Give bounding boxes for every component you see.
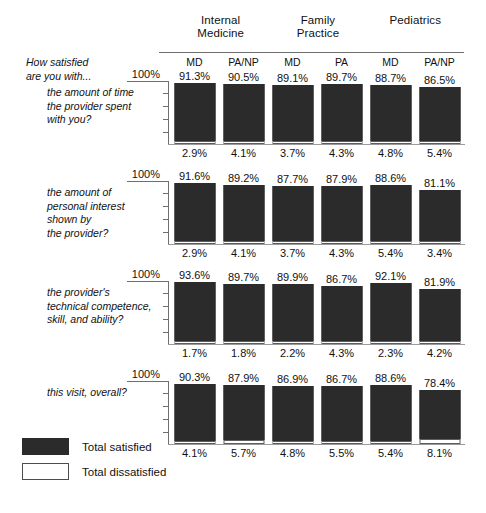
bar-value-satisfied-label: 90.3% <box>179 371 210 383</box>
bar-total-dissatisfied[interactable] <box>223 241 264 244</box>
bar-total-satisfied[interactable] <box>272 386 313 441</box>
bar-value-dissatisfied-label: 4.3% <box>329 347 354 359</box>
bar-total-dissatisfied[interactable] <box>272 441 313 444</box>
y-axis-tick-0 <box>163 193 168 194</box>
bar-total-satisfied[interactable] <box>272 284 313 341</box>
bar-column: 89.7%1.8% <box>219 268 268 345</box>
bar-value-dissatisfied-label: 3.7% <box>280 247 305 259</box>
bar-column: 78.4%8.1% <box>415 368 464 445</box>
panel-question-line: the provider's <box>47 286 142 300</box>
y-axis-tick-0 <box>163 93 168 94</box>
bar-total-satisfied[interactable] <box>321 84 362 141</box>
y-axis-tick-2 <box>163 319 168 320</box>
bar-total-satisfied[interactable] <box>174 183 215 241</box>
bar-value-dissatisfied-label: 3.4% <box>427 247 452 259</box>
bar-column: 90.5%4.1% <box>219 68 268 145</box>
bar-total-satisfied[interactable] <box>370 385 411 441</box>
bar-total-dissatisfied[interactable] <box>321 241 362 244</box>
bar-total-satisfied[interactable] <box>370 185 411 241</box>
bar-total-satisfied[interactable] <box>419 87 460 141</box>
bar-total-dissatisfied[interactable] <box>272 241 313 244</box>
bar-group <box>223 281 264 344</box>
bar-total-dissatisfied[interactable] <box>321 441 362 444</box>
bar-value-satisfied-label: 87.7% <box>277 173 308 185</box>
bar-column: 88.6%5.4% <box>366 368 415 445</box>
bar-total-dissatisfied[interactable] <box>419 141 460 144</box>
panel-plot-area: 91.3%2.9%90.5%4.1%89.1%3.7%89.7%4.3%88.7… <box>170 68 464 145</box>
bar-total-dissatisfied[interactable] <box>419 341 460 344</box>
bar-group <box>419 81 460 144</box>
bar-column: 92.1%2.3% <box>366 268 415 345</box>
bar-total-dissatisfied[interactable] <box>223 440 264 444</box>
bar-total-satisfied[interactable] <box>321 386 362 441</box>
legend-item-satisfied: Total satisfied <box>22 434 202 459</box>
bar-total-satisfied[interactable] <box>272 186 313 241</box>
bar-total-dissatisfied[interactable] <box>370 241 411 244</box>
bar-total-dissatisfied[interactable] <box>370 141 411 144</box>
bar-value-satisfied-label: 88.6% <box>375 172 406 184</box>
bar-value-satisfied-label: 87.9% <box>326 173 357 185</box>
bar-group <box>223 381 264 444</box>
bar-group <box>370 81 411 144</box>
panel-question-line: technical competence, <box>47 300 142 314</box>
legend-label-dissatisfied: Total dissatisfied <box>82 466 166 478</box>
bar-group <box>321 81 362 144</box>
header-divider-rule <box>159 52 464 53</box>
group-header-line1: Internal <box>172 14 269 27</box>
y-axis-line <box>168 281 169 344</box>
bar-total-dissatisfied[interactable] <box>272 341 313 344</box>
bar-value-dissatisfied-label: 5.4% <box>378 447 403 459</box>
bar-total-satisfied[interactable] <box>223 284 264 341</box>
bar-total-satisfied[interactable] <box>321 186 362 241</box>
bar-column: 93.6%1.7% <box>170 268 219 345</box>
panel-question-line: personal interest <box>47 200 142 214</box>
bar-group <box>321 281 362 344</box>
panel-question-line: the provider? <box>47 227 142 241</box>
bar-total-dissatisfied[interactable] <box>223 141 264 144</box>
bar-group <box>174 81 215 144</box>
bar-total-satisfied[interactable] <box>321 286 362 341</box>
y-axis-max-label: 100% <box>126 368 160 380</box>
bar-group <box>419 281 460 344</box>
y-axis-tick-2 <box>163 419 168 420</box>
bar-total-satisfied[interactable] <box>174 83 215 141</box>
chart-panel-1: the amount ofpersonal interestshown byth… <box>0 168 486 268</box>
bar-total-satisfied[interactable] <box>174 384 215 441</box>
chart-panel-0: the amount of timethe provider spentwith… <box>0 68 486 168</box>
bar-total-dissatisfied[interactable] <box>223 341 264 344</box>
bar-value-satisfied-label: 87.9% <box>228 372 259 384</box>
bar-total-dissatisfied[interactable] <box>419 439 460 444</box>
bar-total-satisfied[interactable] <box>419 190 460 241</box>
bar-total-satisfied[interactable] <box>419 289 460 341</box>
bar-total-satisfied[interactable] <box>370 85 411 141</box>
bar-group <box>419 181 460 244</box>
bar-value-satisfied-label: 91.3% <box>179 70 210 82</box>
bar-value-satisfied-label: 89.1% <box>277 72 308 84</box>
bar-group <box>370 381 411 444</box>
bar-total-dissatisfied[interactable] <box>370 341 411 344</box>
bar-total-satisfied[interactable] <box>419 390 460 439</box>
bar-total-dissatisfied[interactable] <box>174 141 215 144</box>
bar-column: 91.3%2.9% <box>170 68 219 145</box>
group-header-line2: Practice <box>269 27 366 40</box>
bar-total-dissatisfied[interactable] <box>370 441 411 444</box>
bar-value-satisfied-label: 81.1% <box>424 177 455 189</box>
bar-total-satisfied[interactable] <box>223 385 264 440</box>
y-axis-tick-2 <box>163 119 168 120</box>
bar-total-satisfied[interactable] <box>223 84 264 141</box>
bar-total-dissatisfied[interactable] <box>174 341 215 344</box>
y-axis-tick-0 <box>163 293 168 294</box>
bar-value-dissatisfied-label: 4.1% <box>231 247 256 259</box>
bar-total-dissatisfied[interactable] <box>272 141 313 144</box>
bar-value-satisfied-label: 86.7% <box>326 273 357 285</box>
bar-total-dissatisfied[interactable] <box>321 341 362 344</box>
bar-total-dissatisfied[interactable] <box>321 141 362 144</box>
bar-total-dissatisfied[interactable] <box>174 241 215 244</box>
bar-total-satisfied[interactable] <box>370 283 411 341</box>
group-header-line2: Medicine <box>172 27 269 40</box>
bar-total-satisfied[interactable] <box>223 185 264 241</box>
bar-total-satisfied[interactable] <box>272 85 313 141</box>
bar-total-dissatisfied[interactable] <box>419 241 460 244</box>
bar-value-dissatisfied-label: 2.2% <box>280 347 305 359</box>
bar-total-satisfied[interactable] <box>174 282 215 341</box>
